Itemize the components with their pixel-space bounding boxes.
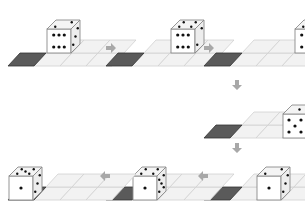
pip [196, 44, 198, 46]
pip [176, 33, 179, 36]
die [133, 167, 166, 200]
pip [183, 21, 185, 23]
pip [302, 26, 304, 28]
pip [36, 182, 38, 184]
pip [158, 179, 160, 181]
die-top-face [283, 105, 305, 114]
pip [181, 45, 184, 48]
pip [160, 182, 162, 184]
die-front-face [47, 29, 71, 53]
pip [39, 174, 41, 176]
pip [72, 44, 74, 46]
pip [299, 118, 302, 121]
pip [201, 27, 203, 29]
pip [281, 168, 283, 170]
panel-4 [204, 105, 305, 138]
pip [284, 182, 286, 184]
pip [28, 173, 30, 175]
pip [163, 186, 165, 188]
pip [264, 173, 266, 175]
pip [71, 21, 73, 23]
pip [299, 130, 302, 133]
pip [74, 35, 76, 37]
pip [54, 26, 56, 28]
pip [157, 168, 159, 170]
pip [163, 174, 165, 176]
die [283, 105, 305, 138]
pip [287, 118, 290, 121]
die-front-face [295, 29, 305, 53]
die [295, 20, 305, 53]
pip [300, 45, 303, 48]
pip [298, 108, 300, 110]
pip [176, 45, 179, 48]
die [257, 167, 290, 200]
pip [300, 33, 303, 36]
pip [178, 26, 180, 28]
pip [195, 21, 197, 23]
die [47, 20, 80, 53]
pip [187, 33, 190, 36]
die-front-face [171, 29, 195, 53]
pip [158, 191, 160, 193]
pip [34, 191, 36, 193]
pip [282, 191, 284, 193]
pip [145, 168, 147, 170]
die [9, 167, 42, 200]
pip [24, 170, 26, 172]
pip [63, 33, 66, 36]
pip [57, 45, 60, 48]
die [171, 20, 204, 53]
arrow-down-icon [232, 143, 242, 153]
panel-7 [8, 167, 136, 200]
pip [33, 168, 35, 170]
pip [287, 130, 290, 133]
pip [287, 174, 289, 176]
pip [57, 33, 60, 36]
arrow-down-icon [232, 80, 242, 90]
pip [143, 186, 146, 189]
diagram-canvas [0, 0, 305, 205]
pip [63, 45, 66, 48]
pip [16, 173, 18, 175]
pip [19, 186, 22, 189]
pip [181, 33, 184, 36]
pip [52, 33, 55, 36]
pip [21, 168, 23, 170]
pip [267, 186, 270, 189]
pip [140, 173, 142, 175]
pip [152, 173, 154, 175]
pip [187, 45, 190, 48]
pip [77, 27, 79, 29]
pip [293, 124, 296, 127]
pip [190, 26, 192, 28]
pip [52, 45, 55, 48]
die-rolling-diagram [0, 0, 305, 205]
